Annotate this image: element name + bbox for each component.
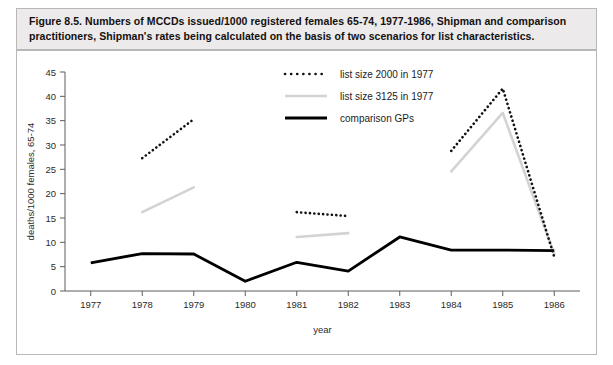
legend-label-2: comparison GPs [340,113,414,124]
legend-item-comparison-gps: comparison GPs [283,107,493,129]
caption-line-1: Figure 8.5. Numbers of MCCDs issued/1000… [29,14,586,29]
chart-legend: list size 2000 in 1977 list size 3125 in… [283,63,493,129]
legend-label-1: list size 3125 in 1977 [340,91,433,102]
legend-item-list-size-2000: list size 2000 in 1977 [283,63,493,85]
legend-swatch-dotted [283,68,329,80]
legend-swatch-gray [283,90,329,102]
figure-page: Figure 8.5. Numbers of MCCDs issued/1000… [0,0,613,365]
caption-line-2: practitioners, Shipman's rates being cal… [29,29,586,44]
legend-label-0: list size 2000 in 1977 [340,69,433,80]
legend-item-list-size-3125: list size 3125 in 1977 [283,85,493,107]
legend-swatch-black [283,112,329,124]
figure-caption-box: Figure 8.5. Numbers of MCCDs issued/1000… [16,8,597,50]
